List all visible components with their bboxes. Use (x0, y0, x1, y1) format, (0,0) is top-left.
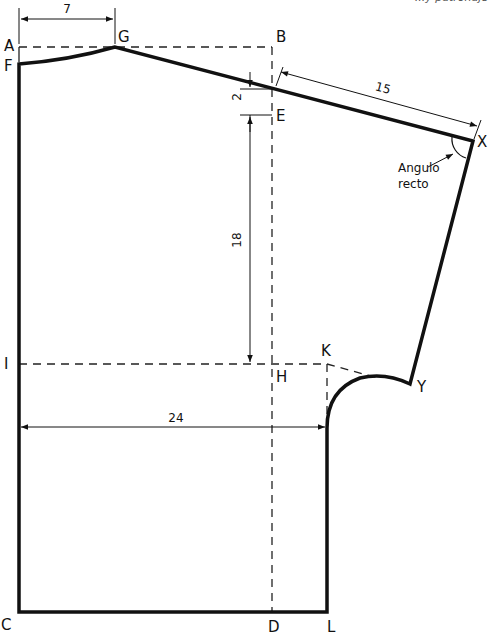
point-label-D: D (268, 618, 280, 636)
point-label-B: B (276, 28, 286, 46)
dim-vertical (240, 72, 272, 362)
point-label-Y: Y (416, 378, 427, 396)
point-label-A: A (4, 37, 15, 55)
note-angulo: Angulo (398, 161, 440, 175)
point-label-C: C (1, 616, 11, 634)
point-label-I: I (4, 355, 8, 373)
point-label-G: G (118, 28, 130, 46)
pattern-diagram: 7 15 2 18 24 Angulo recto A G B F E X I … (0, 0, 494, 639)
point-label-L: L (327, 618, 336, 636)
dim-label-shoulder-length: 15 (374, 79, 392, 96)
dim-label-armhole-depth: 18 (230, 232, 244, 247)
bodice-outline (19, 47, 473, 612)
dim-shoulder-length (276, 67, 481, 139)
point-label-E: E (276, 107, 285, 125)
pattern-outline (19, 47, 473, 612)
construction-lines (19, 47, 378, 612)
dim-label-neck-width: 7 (63, 2, 71, 16)
point-label-H: H (276, 368, 287, 386)
note-recto: recto (398, 177, 429, 191)
point-label-F: F (4, 57, 13, 75)
dim-label-shoulder-drop: 2 (230, 93, 244, 101)
point-label-X: X (477, 133, 487, 151)
dim-label-half-width: 24 (168, 411, 183, 425)
point-label-K: K (321, 342, 332, 360)
